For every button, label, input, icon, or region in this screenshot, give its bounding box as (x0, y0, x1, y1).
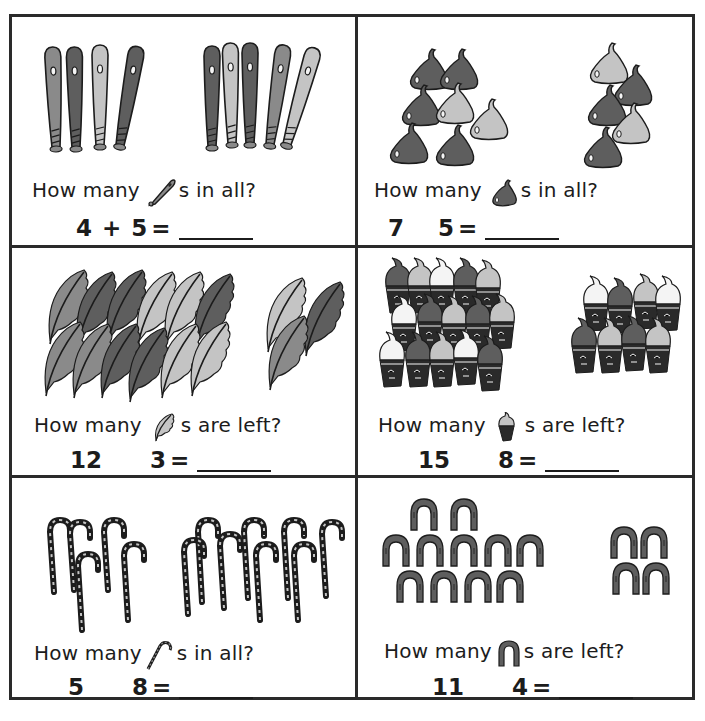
baseball-bat-icon (204, 46, 220, 151)
baseball-bat-icon (146, 177, 176, 207)
number-a: 12 (70, 447, 102, 473)
horseshoe-icon (613, 563, 639, 594)
question-suffix: s are left? (524, 639, 625, 663)
question-suffix: s in all? (177, 641, 254, 665)
horseshoe-icon (517, 535, 543, 566)
number-b: 5 (438, 215, 454, 241)
equals-sign: = (532, 674, 551, 700)
answer-blank[interactable] (179, 697, 253, 699)
answer-blank[interactable] (197, 470, 271, 472)
equation: 7 5 = (388, 215, 559, 241)
horseshoe-icon (465, 571, 491, 602)
feather-icon (305, 282, 344, 356)
question-text: How many s are left? (384, 636, 625, 666)
number-b: 5 (131, 215, 147, 241)
chocolate-drop-icon (391, 123, 428, 164)
number-a: 7 (388, 215, 404, 241)
horseshoe-icon (451, 499, 477, 530)
equals-sign: = (152, 674, 171, 700)
operator: + (102, 215, 121, 241)
equation: 15 8 = (418, 447, 619, 473)
horseshoe-icon (641, 527, 667, 558)
question-text: How many s in all? (374, 175, 598, 205)
horseshoe-icon (451, 535, 477, 566)
number-a: 5 (68, 674, 84, 700)
equation: 12 3 = (70, 447, 271, 473)
number-b: 3 (150, 447, 166, 473)
panel-candy-canes: How many s in all? 5 8 = (12, 478, 355, 700)
question-text: How many s in all? (32, 175, 256, 205)
chocolate-drop-icon (403, 85, 440, 126)
number-a: 11 (432, 674, 464, 700)
answer-blank[interactable] (545, 470, 619, 472)
panel-bats: How many s in all? 4 + 5 = (12, 17, 355, 245)
number-b: 8 (498, 447, 514, 473)
feather-icon (148, 412, 178, 442)
question-suffix: s are left? (181, 413, 282, 437)
question-suffix: s in all? (179, 178, 256, 202)
baseball-bat-icon (111, 45, 145, 151)
equation: 11 4 = (432, 674, 633, 700)
question-prefix: How many (374, 178, 482, 202)
horseshoe-icon (494, 638, 524, 668)
worksheet-grid: How many s in all? 4 + 5 = (9, 14, 695, 700)
panel-horseshoes: How many s are left? 11 4 = (358, 478, 695, 700)
number-b: 8 (132, 674, 148, 700)
question-prefix: How many (378, 413, 486, 437)
baseball-bat-icon (45, 47, 65, 152)
baseball-bat-icon (242, 43, 258, 148)
answer-blank[interactable] (559, 697, 633, 699)
candy-cane-icon (294, 544, 314, 620)
baseball-bat-icon (66, 47, 84, 152)
horseshoe-icon (431, 571, 457, 602)
candy-cane-icon (198, 520, 218, 602)
equation: 4 + 5 = (76, 215, 253, 241)
horseshoe-icon (485, 535, 511, 566)
horseshoes-picture (358, 478, 695, 700)
candy-cane-icon (50, 520, 70, 592)
number-a: 4 (76, 215, 92, 241)
horseshoe-icon (411, 499, 437, 530)
equals-sign: = (458, 215, 477, 241)
candy-cane-icon (78, 554, 98, 630)
feathers-picture (12, 248, 355, 475)
answer-blank[interactable] (485, 238, 559, 240)
baseball-bat-icon (92, 45, 108, 150)
number-a: 15 (418, 447, 450, 473)
horseshoe-icon (611, 527, 637, 558)
equals-sign: = (170, 447, 189, 473)
chocolate-drop-icon (488, 177, 518, 207)
panel-chocolate-drops: How many s in all? 7 5 = (358, 17, 695, 245)
chocolate-drops-picture (358, 17, 695, 245)
question-prefix: How many (34, 413, 142, 437)
question-text: How many s are left? (34, 410, 282, 440)
question-prefix: How many (34, 641, 142, 665)
equals-sign: = (151, 215, 170, 241)
horseshoe-icon (417, 535, 443, 566)
chocolate-drop-icon (471, 99, 508, 140)
baseball-bats-picture (12, 17, 355, 245)
chocolate-drop-icon (591, 43, 628, 84)
horseshoe-icon (397, 571, 423, 602)
equals-sign: = (518, 447, 537, 473)
candy-cane-icon (220, 534, 240, 608)
horseshoe-icon (643, 563, 669, 594)
horseshoe-icon (497, 571, 523, 602)
candy-cane-icon (124, 544, 144, 620)
ice-cream-cones-picture (358, 248, 695, 475)
question-text: How many s in all? (34, 638, 254, 668)
candy-cane-icon (144, 640, 174, 670)
equation: 5 8 = (68, 674, 253, 700)
panel-feathers: How many s are left? 12 3 = (12, 248, 355, 475)
question-prefix: How many (384, 639, 492, 663)
candy-cane-icon (256, 544, 276, 620)
answer-blank[interactable] (179, 238, 253, 240)
candy-cane-icon (104, 520, 124, 590)
question-suffix: s are left? (525, 413, 626, 437)
chocolate-drop-icon (437, 125, 474, 166)
baseball-bat-icon (222, 43, 240, 148)
candy-cane-icon (322, 522, 342, 596)
panel-ice-cream-cones: How many s are left? 15 8 = (358, 248, 695, 475)
number-b: 4 (512, 674, 528, 700)
question-text: How many s are left? (378, 410, 626, 440)
